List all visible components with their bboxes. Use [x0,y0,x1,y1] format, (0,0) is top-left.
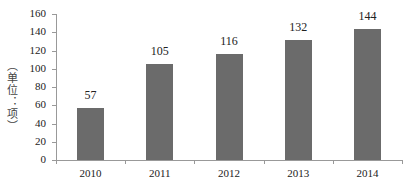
y-tick-label: 0 [18,153,46,165]
data-label: 57 [71,88,111,103]
x-tick-label: 2011 [140,167,180,179]
x-tick-label: 2014 [347,167,387,179]
x-tick-label: 2012 [209,167,249,179]
y-tick-mark [52,51,56,52]
x-tick-mark [264,160,265,164]
y-tick-label: 60 [18,98,46,110]
data-label: 105 [140,44,180,59]
x-tick-label: 2013 [278,167,318,179]
x-axis-line [56,160,402,161]
y-tick-mark [52,87,56,88]
y-tick-mark [52,69,56,70]
bar-chart: （单位：项） 020406080100120140160 57201010520… [0,0,408,189]
y-tick-mark [52,142,56,143]
y-tick-mark [52,124,56,125]
bar-2014 [354,29,381,160]
data-label: 116 [209,34,249,49]
y-tick-label: 120 [18,44,46,56]
x-tick-mark [125,160,126,164]
bar-2013 [285,40,312,160]
y-tick-mark [52,14,56,15]
y-tick-label: 140 [18,25,46,37]
y-axis-line [56,14,57,160]
y-tick-mark [52,105,56,106]
data-label: 132 [278,20,318,35]
x-tick-mark [402,160,403,164]
x-tick-label: 2010 [71,167,111,179]
bar-2010 [77,108,104,160]
x-tick-mark [194,160,195,164]
y-tick-label: 20 [18,135,46,147]
data-label: 144 [347,9,387,24]
y-tick-label: 80 [18,80,46,92]
bar-2012 [216,54,243,160]
y-tick-label: 160 [18,7,46,19]
y-tick-label: 40 [18,117,46,129]
y-tick-mark [52,32,56,33]
y-tick-label: 100 [18,62,46,74]
bar-2011 [146,64,173,160]
x-tick-mark [333,160,334,164]
x-tick-mark [56,160,57,164]
